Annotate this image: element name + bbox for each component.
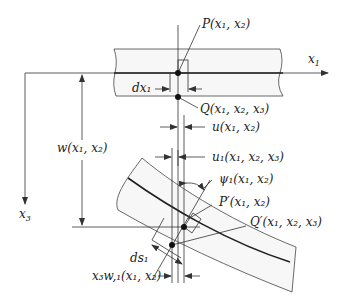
psi1-label: ψ₁(x₁, x₂) (219, 172, 274, 186)
x3-axis-label: x3 (19, 207, 31, 223)
x1-axis-label: x1 (308, 52, 320, 68)
u1-dimension: u₁(x₁, x₂, x₃) (155, 150, 284, 166)
w-dimension: w(x₁, x₂) (57, 75, 108, 225)
u-label: u(x₁, x₂) (212, 120, 260, 134)
q-leader (178, 97, 198, 108)
point-q-prime (169, 242, 175, 248)
u-dimension: u(x₁, x₂) (160, 120, 260, 134)
point-p-prime (181, 224, 187, 230)
q-label: Q(x₁, x₂, x₃) (200, 102, 270, 116)
w-label: w(x₁, x₂) (57, 141, 108, 155)
p-prime-label: P′(x₁, x₂) (218, 195, 270, 209)
point-q (175, 94, 181, 100)
u1-label: u₁(x₁, x₂, x₃) (212, 150, 284, 164)
beam-deformation-diagram: x1 x3 dx₁ P(x₁, x₂) Q(x₁, x₂, x₃) u(x₁, … (0, 0, 344, 307)
point-p (175, 70, 181, 76)
x3w1-label: x₃w,₁(x₁, x₂) (92, 269, 162, 283)
x3-axis: x3 (19, 73, 31, 223)
ds1-dimension: ds₁ (130, 245, 182, 265)
q-prime-label: Q′(x₁, x₂, x₃) (250, 215, 322, 229)
ds1-label: ds₁ (130, 251, 149, 265)
psi1-arc (186, 183, 204, 190)
dx1-label: dx₁ (132, 81, 151, 95)
p-label: P(x₁, x₂) (201, 17, 251, 31)
